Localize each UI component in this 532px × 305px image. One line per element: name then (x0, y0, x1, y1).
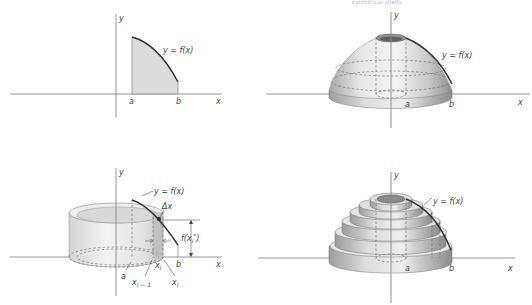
curve-label: y = f(x) (432, 197, 463, 206)
delta-x-label: Δx (161, 202, 172, 211)
panel-region: y y = f(x) a b x (10, 14, 222, 117)
xi-star-label: xi (154, 261, 162, 271)
b-label: b (449, 100, 454, 109)
top-caption: cylindrical shells (352, 0, 402, 6)
b-label: b (449, 264, 454, 273)
x-axis-label: x (507, 264, 513, 273)
panel-stacked-shells: y y = f(x) a b x (258, 171, 515, 303)
x-axis-label: x (215, 260, 221, 269)
y-axis-label: y (393, 11, 399, 20)
solid-dome (329, 38, 452, 99)
a-label: a (405, 100, 410, 109)
y-axis-label: y (118, 14, 124, 23)
xi-leader (164, 260, 175, 276)
cylindrical-shells-figure: cylindrical shells y y = f(x) a b x y y … (0, 0, 532, 305)
b-label: b (176, 260, 181, 269)
x-axis-label: x (517, 98, 523, 107)
a-label: a (121, 272, 126, 281)
curve-leader (424, 198, 432, 205)
xi-minus-1-label: xi − 1 (131, 278, 151, 288)
y-axis-label: y (393, 171, 399, 180)
curve-leader (142, 191, 153, 196)
panel-solid: y y = f(x) a b x (266, 11, 530, 128)
b-label: b (176, 97, 181, 106)
curve-label: y = f(x) (162, 46, 193, 55)
x-axis-label: x (215, 97, 221, 106)
height-label: f(xi*) (181, 232, 199, 244)
curve-label: y = f(x) (441, 51, 472, 60)
panel-single-shell: y y = f(x) Δx f(xi*) xi b x a xi − 1 xi (10, 168, 222, 296)
xi-label: xi (171, 278, 179, 288)
shell-top-inner (77, 207, 159, 223)
a-label: a (129, 97, 134, 106)
curve-label: y = f(x) (153, 187, 184, 196)
a-label: a (405, 264, 410, 273)
y-axis-label: y (118, 168, 124, 177)
